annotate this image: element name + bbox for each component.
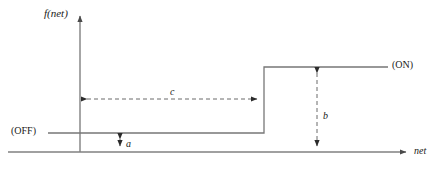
y-axis-label: f(net) xyxy=(44,8,68,19)
annotation-a-label: a xyxy=(126,139,131,149)
off-state-label: (OFF) xyxy=(11,126,36,136)
step-function-diagram: f(net) net (ON) (OFF) a b c xyxy=(0,0,436,174)
x-axis-label: net xyxy=(414,146,426,156)
on-state-label: (ON) xyxy=(392,60,413,70)
annotation-b-label: b xyxy=(323,111,328,121)
diagram-canvas xyxy=(0,0,436,174)
annotation-c-label: c xyxy=(170,87,174,97)
step-function-curve xyxy=(48,67,388,133)
